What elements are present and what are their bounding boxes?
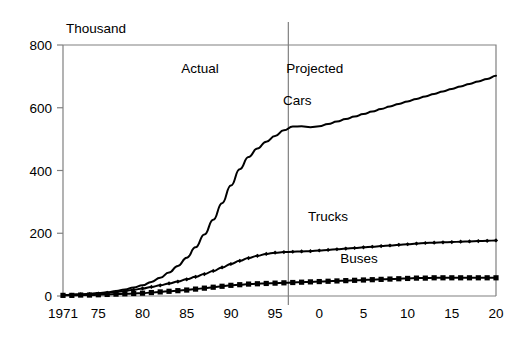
series-marker-trucks — [220, 265, 224, 269]
x-tick-label: 20 — [488, 306, 503, 321]
series-marker-trucks — [441, 240, 445, 244]
series-marker-buses — [396, 276, 401, 281]
series-marker-trucks — [397, 243, 401, 247]
series-marker-trucks — [326, 248, 330, 252]
series-marker-buses — [140, 291, 145, 296]
series-label-trucks: Trucks — [308, 209, 348, 224]
series-marker-trucks — [273, 251, 277, 255]
series-marker-buses — [343, 278, 348, 283]
series-marker-trucks — [176, 279, 180, 283]
series-marker-trucks — [379, 244, 383, 248]
y-axis-unit-label: Thousand — [66, 21, 126, 36]
x-tick-label: 1971 — [48, 306, 78, 321]
series-marker-buses — [149, 290, 154, 295]
series-marker-trucks — [450, 240, 454, 244]
series-marker-trucks — [406, 242, 410, 246]
series-marker-trucks — [229, 262, 233, 266]
series-marker-buses — [326, 279, 331, 284]
series-marker-buses — [308, 279, 313, 284]
series-marker-buses — [122, 291, 127, 296]
series-marker-trucks — [185, 277, 189, 281]
series-marker-buses — [387, 276, 392, 281]
plot-frame — [63, 45, 496, 296]
series-marker-trucks — [308, 249, 312, 253]
series-marker-buses — [264, 281, 269, 286]
series-marker-trucks — [414, 242, 418, 246]
series-marker-trucks — [361, 245, 365, 249]
y-tick-label: 200 — [29, 226, 52, 241]
series-marker-buses — [467, 275, 472, 280]
x-tick-label: 10 — [400, 306, 415, 321]
series-marker-buses — [423, 276, 428, 281]
series-marker-buses — [361, 277, 366, 282]
series-marker-buses — [290, 280, 295, 285]
series-marker-trucks — [202, 272, 206, 276]
series-marker-trucks — [388, 243, 392, 247]
y-axis-ticks: 0200400600800 — [29, 38, 63, 304]
x-tick-label: 90 — [223, 306, 238, 321]
series-marker-trucks — [282, 250, 286, 254]
series-marker-buses — [202, 286, 207, 291]
series-marker-buses — [317, 279, 322, 284]
series-marker-buses — [352, 278, 357, 283]
series-label-buses: Buses — [340, 251, 378, 266]
series-line-cars — [63, 76, 496, 295]
chart-container: 0200400600800 1971758085909505101520 Tho… — [0, 0, 528, 343]
series-line-buses — [63, 278, 496, 296]
series-marker-trucks — [158, 283, 162, 287]
series-marker-trucks — [459, 240, 463, 244]
series-marker-buses — [96, 292, 101, 297]
series-marker-buses — [255, 281, 260, 286]
series-marker-buses — [228, 283, 233, 288]
x-tick-label: 85 — [179, 306, 194, 321]
y-tick-label: 400 — [29, 164, 52, 179]
series-marker-buses — [193, 286, 198, 291]
series-marker-buses — [272, 281, 277, 286]
series-marker-buses — [281, 280, 286, 285]
series-marker-buses — [211, 285, 216, 290]
series-marker-trucks — [149, 285, 153, 289]
series-marker-buses — [405, 276, 410, 281]
series-marker-trucks — [432, 241, 436, 245]
series-marker-buses — [379, 277, 384, 282]
x-tick-label: 75 — [91, 306, 106, 321]
series-marker-trucks — [423, 241, 427, 245]
actual-region-label: Actual — [181, 61, 219, 76]
series-marker-buses — [158, 289, 163, 294]
x-tick-label: 0 — [316, 306, 324, 321]
series-marker-trucks — [335, 247, 339, 251]
series-marker-trucks — [264, 252, 268, 256]
series-marker-trucks — [370, 245, 374, 249]
series-marker-trucks — [238, 259, 242, 263]
x-tick-label: 5 — [360, 306, 368, 321]
series-marker-trucks — [211, 269, 215, 273]
x-tick-label: 80 — [135, 306, 150, 321]
x-axis-ticks: 1971758085909505101520 — [48, 306, 504, 321]
x-tick-label: 15 — [444, 306, 459, 321]
series-marker-buses — [131, 291, 136, 296]
series-marker-trucks — [291, 250, 295, 254]
series-marker-buses — [87, 292, 92, 297]
series-marker-trucks — [167, 281, 171, 285]
series-marker-buses — [60, 293, 65, 298]
series-marker-buses — [105, 292, 110, 297]
chart-text-labels: ThousandActualProjectedCarsTrucksBuses — [66, 21, 378, 266]
series-marker-buses — [219, 284, 224, 289]
series-marker-buses — [485, 275, 490, 280]
series-lines — [60, 76, 498, 298]
series-label-cars: Cars — [283, 93, 312, 108]
series-marker-buses — [414, 276, 419, 281]
series-marker-buses — [449, 275, 454, 280]
y-tick-label: 800 — [29, 38, 52, 53]
y-tick-label: 600 — [29, 101, 52, 116]
series-marker-buses — [440, 275, 445, 280]
series-marker-buses — [458, 275, 463, 280]
series-marker-buses — [476, 275, 481, 280]
series-marker-trucks — [317, 248, 321, 252]
series-marker-buses — [175, 288, 180, 293]
series-marker-buses — [370, 277, 375, 282]
series-marker-buses — [78, 292, 83, 297]
series-marker-buses — [113, 292, 118, 297]
series-marker-trucks — [485, 239, 489, 243]
x-tick-label: 95 — [268, 306, 283, 321]
